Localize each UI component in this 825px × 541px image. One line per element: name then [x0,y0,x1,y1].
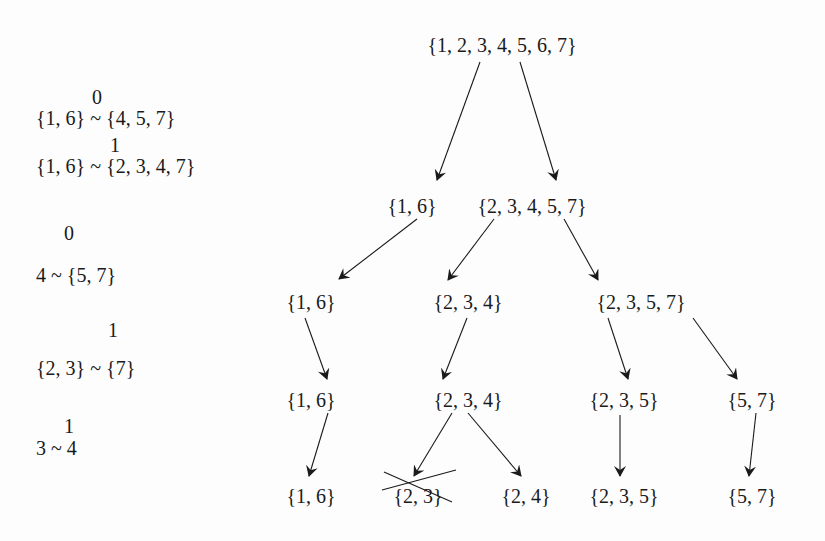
equivalence-lhs: {2, 3} [36,357,85,379]
equivalence-row: {1, 6} ~ {4, 5, 7} [36,108,175,128]
edge-arrow [749,413,756,476]
tree-node: {2, 3, 4} [433,390,502,410]
edge-arrow [339,219,417,279]
edge-arrow [693,318,737,379]
edge-arrow [448,219,494,280]
edge-arrow [564,219,598,280]
tree-node: {2, 4} [501,486,550,506]
edge-arrow [443,318,467,379]
tree-node: {2, 3, 5, 7} [596,292,685,312]
tilde-relation: ~ [51,264,62,286]
tree-node: {5, 7} [727,390,776,410]
edge-arrow [520,62,556,180]
tree-node: {1, 6} [387,196,436,216]
edge-arrow [414,413,452,476]
tree-node: {2, 3, 5} [589,486,658,506]
edge-arrow [305,318,327,379]
equivalence-index: 1 [64,416,74,436]
equivalence-lhs: {1, 6} [36,107,85,129]
equivalence-lhs: 4 [36,264,46,286]
tree-node-struck: {2, 3} [393,486,442,506]
tree-node: {2, 3, 5} [589,390,658,410]
tree-edges [0,0,825,541]
edge-arrow [468,413,521,476]
equivalence-lhs: {1, 6} [36,155,85,177]
edge-arrow [309,413,328,476]
equivalence-index: 1 [108,320,118,340]
tree-node: {1, 6} [286,486,335,506]
tilde-relation: ~ [90,107,101,129]
tilde-relation: ~ [90,155,101,177]
tree-node: {5, 7} [727,486,776,506]
edge-arrow [437,62,480,180]
equivalence-rhs: {7} [106,357,135,379]
tree-node: {2, 3, 4} [433,292,502,312]
equivalence-index: 1 [110,135,120,155]
equivalence-row: 4 ~ {5, 7} [36,265,116,285]
tilde-relation: ~ [51,437,62,459]
equivalence-rhs: {4, 5, 7} [106,107,175,129]
tilde-relation: ~ [90,357,101,379]
equivalence-index: 0 [92,87,102,107]
equivalence-rhs: {2, 3, 4, 7} [106,155,195,177]
equivalence-rhs: {5, 7} [67,264,116,286]
tree-node: {1, 6} [286,390,335,410]
tree-node: {2, 3, 4, 5, 7} [477,196,586,216]
tree-node: {1, 6} [286,292,335,312]
equivalence-row: {1, 6} ~ {2, 3, 4, 7} [36,156,195,176]
edge-arrow [608,318,628,379]
equivalence-row: 3 ~ 4 [36,438,77,458]
equivalence-lhs: 3 [36,437,46,459]
equivalence-row: {2, 3} ~ {7} [36,358,135,378]
equivalence-rhs: 4 [67,437,77,459]
equivalence-index: 0 [64,223,74,243]
tree-node-root: {1, 2, 3, 4, 5, 6, 7} [427,35,576,55]
